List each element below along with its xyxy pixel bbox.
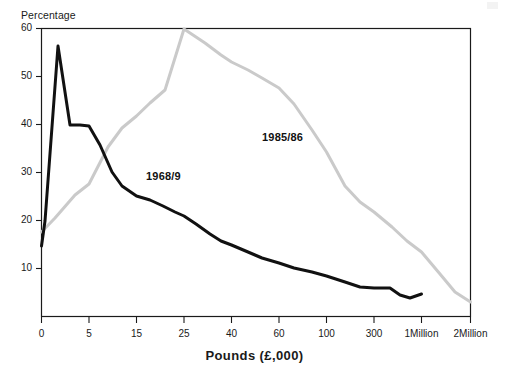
x-tick-label: 5: [79, 328, 99, 339]
x-tick-label: 2Million: [447, 328, 495, 339]
x-tick-label: 1Million: [398, 328, 446, 339]
chart-plot-area: [0, 0, 509, 376]
x-tick-label: 0: [32, 328, 52, 339]
chart-figure: Percentage: [0, 0, 509, 376]
y-tick-label: 40: [10, 118, 32, 129]
series-line-1985: [42, 29, 471, 302]
y-tick-label: 10: [10, 262, 32, 273]
x-tick-label: 300: [359, 328, 389, 339]
x-axis-title: Pounds (£,000): [0, 348, 509, 363]
y-tick-label: 30: [10, 166, 32, 177]
plot-frame: [42, 29, 471, 317]
x-tick-label: 100: [312, 328, 342, 339]
series-line-1968: [42, 46, 422, 298]
x-tick-label: 15: [125, 328, 149, 339]
series-annotation-1968: 1968/9: [146, 170, 181, 182]
x-tick-label: 25: [172, 328, 196, 339]
series-annotation-1985: 1985/86: [262, 131, 303, 143]
y-tick-label: 60: [10, 22, 32, 33]
y-tick-label: 50: [10, 70, 32, 81]
x-tick-label: 60: [267, 328, 291, 339]
x-axis-ticks: [42, 317, 471, 324]
x-tick-label: 40: [220, 328, 244, 339]
y-tick-label: 20: [10, 214, 32, 225]
